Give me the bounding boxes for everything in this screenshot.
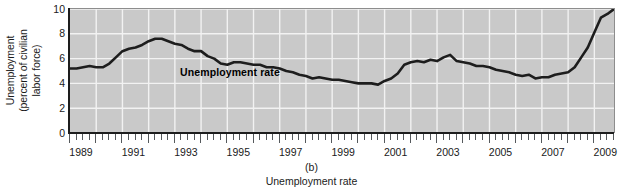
x-tick-quarter (246, 134, 247, 140)
x-tick-quarter (259, 134, 260, 140)
x-tick-quarter (613, 134, 614, 140)
x-tick-label: 1989 (69, 146, 92, 158)
x-tick-quarter (115, 134, 116, 140)
x-tick-quarter (443, 134, 444, 140)
x-tick-quarter (390, 134, 391, 140)
y-axis-label-line-3: labor force) (30, 29, 43, 112)
x-tick-quarter (606, 134, 607, 140)
caption-title: Unemployment rate (0, 174, 623, 188)
x-tick-label: 1997 (279, 146, 302, 158)
y-axis-label-line-1: Unemployment (4, 29, 17, 112)
x-tick-quarter (89, 134, 90, 140)
y-axis-label-line-2: (percent of civilian (17, 29, 30, 112)
x-tick-label: 1991 (122, 146, 145, 158)
y-axis-line (68, 8, 70, 134)
x-tick-year (305, 134, 306, 143)
x-tick-year (384, 134, 385, 143)
x-tick-year (462, 134, 463, 143)
x-tick-quarter (187, 134, 188, 140)
x-tick-label: 2003 (436, 146, 459, 158)
unemployment-rate-chart-figure: Unemployment (percent of civilian labor … (0, 0, 623, 191)
x-tick-quarter (338, 134, 339, 140)
plot-canvas (70, 9, 614, 133)
x-tick-label: 2009 (594, 146, 617, 158)
x-tick-quarter (600, 134, 601, 140)
x-tick-year (148, 134, 149, 143)
x-tick-quarter (167, 134, 168, 140)
y-tick-label: 4 (59, 78, 65, 88)
x-tick-quarter (180, 134, 181, 140)
x-tick-quarter (574, 134, 575, 140)
panel-letter: (b) (0, 160, 623, 174)
x-tick-year (436, 134, 437, 143)
y-axis-label: Unemployment (percent of civilian labor … (0, 0, 46, 140)
series-inline-label: Unemployment rate (180, 66, 280, 78)
x-tick-quarter (482, 134, 483, 140)
x-tick-quarter (548, 134, 549, 140)
x-tick-quarter (502, 134, 503, 140)
x-tick-year (69, 134, 70, 143)
x-tick-quarter (292, 134, 293, 140)
x-tick-year (226, 134, 227, 143)
x-tick-quarter (220, 134, 221, 140)
x-tick-quarter (495, 134, 496, 140)
x-tick-quarter (528, 134, 529, 140)
x-tick-quarter (508, 134, 509, 140)
x-tick-quarter (416, 134, 417, 140)
vertical-gridlines (96, 9, 594, 133)
x-tick-year (174, 134, 175, 143)
x-tick-quarter (430, 134, 431, 140)
x-tick-label: 2007 (541, 146, 564, 158)
x-tick-quarter (108, 134, 109, 140)
y-tick-label: 2 (59, 103, 65, 113)
x-tick-quarter (456, 134, 457, 140)
x-tick-quarter (580, 134, 581, 140)
x-tick-quarter (377, 134, 378, 140)
x-tick-quarter (554, 134, 555, 140)
x-tick-year (593, 134, 594, 143)
x-tick-quarter (325, 134, 326, 140)
x-tick-quarter (266, 134, 267, 140)
unemployment-rate-line (70, 9, 614, 85)
x-tick-quarter (475, 134, 476, 140)
x-tick-year (253, 134, 254, 143)
x-tick-quarter (344, 134, 345, 140)
x-tick-year (567, 134, 568, 143)
x-tick-quarter (207, 134, 208, 140)
plot-area: Unemployment rate (69, 8, 615, 133)
x-tick-year (95, 134, 96, 143)
x-tick-quarter (312, 134, 313, 140)
x-tick-quarter (285, 134, 286, 140)
x-tick-quarter (397, 134, 398, 140)
x-tick-label: 1993 (174, 146, 197, 158)
y-tick-label: 0 (59, 128, 65, 138)
x-tick-label: 2001 (384, 146, 407, 158)
x-tick-year (541, 134, 542, 143)
x-tick-year (515, 134, 516, 143)
x-axis-tick-marks (69, 134, 615, 145)
y-tick-label: 6 (59, 53, 65, 63)
x-tick-quarter (403, 134, 404, 140)
x-tick-quarter (233, 134, 234, 140)
x-tick-quarter (298, 134, 299, 140)
x-tick-quarter (161, 134, 162, 140)
x-tick-quarter (102, 134, 103, 140)
x-tick-year (357, 134, 358, 143)
x-tick-quarter (213, 134, 214, 140)
x-tick-year (489, 134, 490, 143)
x-tick-quarter (534, 134, 535, 140)
horizontal-gridlines (70, 9, 614, 108)
x-tick-quarter (364, 134, 365, 140)
x-tick-quarter (154, 134, 155, 140)
y-tick-label: 10 (53, 4, 65, 14)
x-tick-quarter (561, 134, 562, 140)
x-tick-quarter (272, 134, 273, 140)
x-tick-label: 1995 (227, 146, 250, 158)
x-tick-label: 2005 (489, 146, 512, 158)
x-tick-year (279, 134, 280, 143)
figure-caption: (b) Unemployment rate (0, 160, 623, 188)
y-tick-label: 8 (59, 28, 65, 38)
y-axis-tick-labels: 0 2 4 6 8 10 (46, 0, 68, 140)
x-tick-quarter (135, 134, 136, 140)
x-tick-quarter (351, 134, 352, 140)
